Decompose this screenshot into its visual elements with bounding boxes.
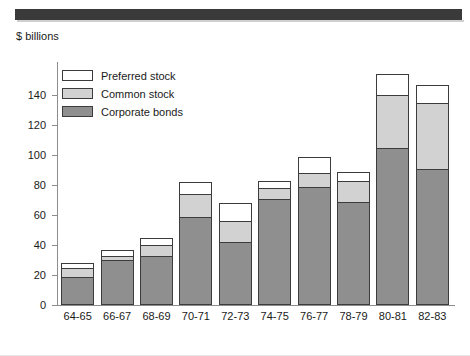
y-axis-tick-label: 80 (34, 179, 46, 191)
bar-segment-corporate-bonds (61, 277, 94, 306)
y-axis-tick (52, 275, 58, 276)
bar-segment-common-stock (61, 268, 94, 277)
bar-segment-common-stock (376, 95, 409, 148)
bar-segment-corporate-bonds (101, 260, 134, 305)
x-axis-tick-label: 78-79 (339, 310, 367, 322)
legend-item-label: Preferred stock (101, 70, 176, 82)
bar-72-73 (219, 203, 252, 305)
bar-segment-corporate-bonds (337, 202, 370, 306)
legend-item: Common stock (62, 86, 183, 101)
bar-segment-corporate-bonds (219, 242, 252, 305)
x-axis-tick-label: 72-73 (221, 310, 249, 322)
bar-segment-preferred-stock (337, 172, 370, 181)
top-rule-shadow (17, 20, 464, 22)
bar-segment-common-stock (416, 103, 449, 169)
bar-66-67 (101, 250, 134, 306)
bar-segment-corporate-bonds (140, 256, 173, 306)
legend-swatch-icon (62, 88, 93, 99)
top-rule-decoration (15, 9, 462, 20)
y-axis-title: $ billions (16, 30, 59, 42)
bar-74-75 (258, 181, 291, 306)
y-axis-line (57, 62, 58, 306)
bar-segment-preferred-stock (298, 157, 331, 174)
bar-segment-corporate-bonds (258, 199, 291, 306)
y-axis-tick (52, 245, 58, 246)
bar-76-77 (298, 157, 331, 306)
y-axis-tick (52, 155, 58, 156)
bar-segment-corporate-bonds (416, 169, 449, 306)
chart-page: $ billions 020406080100120140 64-6566-67… (0, 0, 470, 356)
bar-78-79 (337, 172, 370, 306)
bar-segment-corporate-bonds (179, 217, 212, 306)
bar-segment-preferred-stock (376, 74, 409, 95)
y-axis-tick (52, 305, 58, 306)
y-axis-tick-label: 120 (28, 119, 46, 131)
x-axis-tick-label: 76-77 (300, 310, 328, 322)
x-axis-tick-label: 82-83 (418, 310, 446, 322)
legend-item-label: Common stock (101, 88, 174, 100)
y-axis-tick-label: 40 (34, 239, 46, 251)
bar-segment-corporate-bonds (298, 187, 331, 306)
x-axis-line (57, 305, 455, 306)
legend-item: Corporate bonds (62, 104, 183, 119)
chart-legend: Preferred stockCommon stockCorporate bon… (62, 68, 183, 122)
bar-segment-preferred-stock (416, 85, 449, 103)
bar-70-71 (179, 182, 212, 305)
legend-item-label: Corporate bonds (101, 106, 183, 118)
legend-swatch-icon (62, 70, 93, 81)
bar-segment-preferred-stock (219, 203, 252, 221)
x-axis-tick-label: 80-81 (379, 310, 407, 322)
y-axis-tick-label: 100 (28, 149, 46, 161)
y-axis-tick (52, 185, 58, 186)
y-axis-tick (52, 95, 58, 96)
bar-segment-preferred-stock (179, 182, 212, 194)
y-axis-tick (52, 125, 58, 126)
legend-item: Preferred stock (62, 68, 183, 83)
bar-segment-common-stock (219, 221, 252, 242)
bar-64-65 (61, 263, 94, 305)
bar-segment-common-stock (258, 188, 291, 199)
bar-segment-common-stock (140, 245, 173, 256)
bar-82-83 (416, 85, 449, 306)
bar-segment-preferred-stock (140, 238, 173, 246)
legend-swatch-icon (62, 106, 93, 117)
bar-80-81 (376, 74, 409, 305)
bar-segment-common-stock (179, 194, 212, 217)
bar-segment-preferred-stock (258, 181, 291, 189)
x-axis-tick-label: 74-75 (261, 310, 289, 322)
bar-segment-common-stock (298, 173, 331, 187)
y-axis-tick-label: 20 (34, 269, 46, 281)
y-axis-tick (52, 215, 58, 216)
y-axis-tick-label: 60 (34, 209, 46, 221)
bar-segment-corporate-bonds (376, 148, 409, 306)
x-axis-tick-label: 64-65 (64, 310, 92, 322)
bar-segment-common-stock (337, 181, 370, 202)
x-axis-tick-label: 66-67 (103, 310, 131, 322)
x-axis-tick-label: 70-71 (182, 310, 210, 322)
y-axis-tick-label: 0 (40, 299, 46, 311)
y-axis-tick-label: 140 (28, 89, 46, 101)
x-axis-tick-label: 68-69 (142, 310, 170, 322)
bar-68-69 (140, 238, 173, 306)
